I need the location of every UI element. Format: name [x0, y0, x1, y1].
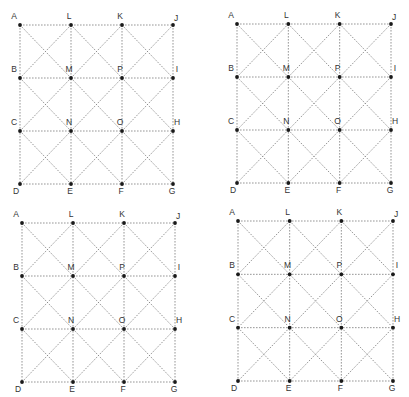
vertex-m-dot [69, 76, 73, 80]
vertex-j-dot [391, 219, 395, 223]
vertex-label: J [394, 209, 398, 219]
vertex-m-dot [288, 272, 292, 276]
grid-lines [237, 24, 391, 183]
panel-bottom-right: ALKJBMPICNOHDEFG [229, 207, 400, 393]
vertex-a-dot [20, 221, 24, 225]
vertex-label: E [69, 384, 75, 394]
diagonal-line [340, 24, 391, 77]
vertex-label: D [231, 383, 237, 393]
vertex-c-dot [236, 326, 240, 330]
vertex-n-dot [71, 327, 75, 331]
vertex-p-dot [120, 76, 124, 80]
vertex-o-dot [338, 128, 342, 132]
vertex-k-dot [122, 221, 126, 225]
diagonal-line [73, 329, 124, 382]
vertex-label: G [387, 185, 394, 195]
vertex-label: P [117, 64, 123, 74]
vertex-label: E [67, 186, 73, 196]
diagonal-line [237, 24, 288, 77]
vertex-label: L [69, 209, 74, 219]
vertex-h-dot [171, 129, 175, 133]
vertex-j-dot [173, 221, 177, 225]
vertex-label: F [120, 384, 125, 394]
vertex-label: I [394, 63, 396, 73]
vertex-l-dot [286, 22, 290, 26]
vertex-p-dot [122, 274, 126, 278]
grid-lines [20, 25, 173, 184]
vertex-label: M [284, 260, 291, 270]
vertex-label: H [176, 315, 182, 325]
vertex-label: H [394, 314, 400, 324]
vertex-label: P [335, 63, 341, 73]
diagonal-line [340, 77, 391, 130]
vertex-label: D [15, 384, 21, 394]
vertex-a-dot [235, 22, 239, 26]
diagonal-line [73, 223, 124, 276]
diagonal-line [237, 77, 288, 130]
vertex-label: O [117, 117, 124, 127]
vertex-label: A [228, 10, 234, 20]
vertex-label: C [229, 314, 235, 324]
vertex-label: N [285, 314, 291, 324]
panel-top-left: ALKJBMPICNOHDEFG [11, 11, 180, 196]
vertex-label: M [65, 64, 72, 74]
vertex-label: L [285, 207, 290, 217]
vertex-label: P [119, 262, 125, 272]
panel-bottom-left: ALKJBMPICNOHDEFG [13, 209, 182, 394]
vertex-label: O [119, 315, 126, 325]
vertex-o-dot [120, 129, 124, 133]
vertex-c-dot [235, 128, 239, 132]
vertex-label: K [117, 11, 123, 21]
diagonal-line [237, 130, 288, 183]
vertex-h-dot [389, 128, 393, 132]
vertex-label: C [13, 315, 19, 325]
vertex-label: E [286, 383, 292, 393]
vertex-a-dot [236, 219, 240, 223]
vertex-b-dot [235, 75, 239, 79]
vertex-l-dot [71, 221, 75, 225]
vertex-label: H [174, 117, 180, 127]
vertex-label: B [228, 63, 234, 73]
vertex-m-dot [286, 75, 290, 79]
vertex-label: F [336, 185, 341, 195]
vertex-label: M [283, 63, 290, 73]
diagonal-line [288, 24, 339, 77]
diagonal-line [122, 25, 173, 78]
vertex-label: P [336, 260, 342, 270]
vertex-i-dot [171, 76, 175, 80]
diagonal-line [122, 78, 173, 131]
vertex-k-dot [339, 219, 343, 223]
vertex-m-dot [71, 274, 75, 278]
vertex-label: A [13, 209, 19, 219]
vertex-label: O [336, 314, 343, 324]
vertex-label: L [67, 11, 72, 21]
vertex-l-dot [288, 219, 292, 223]
vertex-l-dot [69, 23, 73, 27]
vertex-label: G [171, 384, 178, 394]
vertex-n-dot [286, 128, 290, 132]
vertex-label: M [67, 262, 74, 272]
diagonal-line [340, 130, 391, 183]
diagonal-line [124, 329, 175, 382]
vertex-label: B [13, 262, 19, 272]
vertex-label: B [11, 64, 17, 74]
diagonal-line [22, 276, 73, 329]
vertex-label: N [68, 315, 74, 325]
vertex-n-dot [69, 129, 73, 133]
vertex-label: D [230, 185, 236, 195]
vertex-label: A [11, 11, 17, 21]
diagonal-line [124, 276, 175, 329]
vertex-n-dot [288, 326, 292, 330]
diagonal-line [288, 77, 339, 130]
vertex-h-dot [391, 326, 395, 330]
vertex-label: F [338, 383, 343, 393]
vertex-label: K [119, 209, 125, 219]
vertex-label: I [176, 64, 178, 74]
vertex-label: C [228, 116, 234, 126]
diagonal-line [288, 130, 339, 183]
vertex-label: D [13, 186, 19, 196]
grid-lines [238, 221, 393, 381]
vertex-label: G [169, 186, 176, 196]
vertex-label: J [176, 211, 180, 221]
vertex-i-dot [173, 274, 177, 278]
